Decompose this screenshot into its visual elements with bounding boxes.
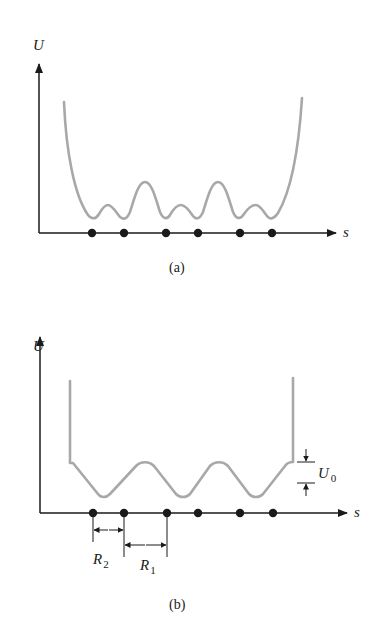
atom-dot xyxy=(162,229,170,237)
x-axis-label-b: s xyxy=(354,504,360,520)
caption-b: (b) xyxy=(169,597,186,613)
panel-b: U0 R2 R1 U s (b) xyxy=(33,337,360,613)
y-axis-label-b: U xyxy=(33,338,45,354)
figure-canvas: U s (a) U0 xyxy=(0,0,380,630)
barrier-label: U0 xyxy=(318,465,337,484)
atom-dot xyxy=(163,509,171,517)
atom-dot xyxy=(88,229,96,237)
atom-dot xyxy=(120,229,128,237)
potential-curve-b xyxy=(70,378,293,497)
atom-dot xyxy=(268,229,276,237)
barrier-height-marker: U0 xyxy=(297,449,337,496)
panel-a: U s (a) xyxy=(33,37,349,276)
y-axis-label-a: U xyxy=(33,37,45,53)
atom-dot xyxy=(194,229,202,237)
atom-dot xyxy=(269,509,277,517)
atom-dot xyxy=(236,509,244,517)
x-axis-label-a: s xyxy=(343,224,349,240)
potential-curve-a xyxy=(64,98,302,219)
atom-dot xyxy=(89,509,97,517)
r2-label: R2 xyxy=(92,551,109,570)
atom-dot xyxy=(236,229,244,237)
r1-label: R1 xyxy=(139,557,156,576)
spacing-markers: R2 R1 xyxy=(92,517,167,576)
caption-a: (a) xyxy=(169,260,185,276)
atom-dot xyxy=(120,509,128,517)
atom-dot xyxy=(194,509,202,517)
